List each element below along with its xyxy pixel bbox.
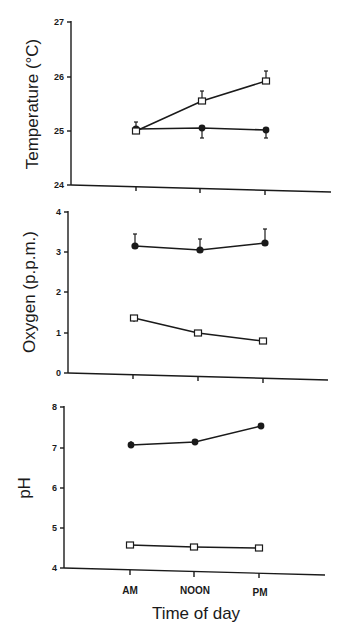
ph-series-filled <box>128 423 265 449</box>
data-point-open <box>131 315 138 321</box>
data-point-open <box>263 78 270 84</box>
y-tick-label: 3 <box>56 247 61 257</box>
x-category-labels: AM NOON PM <box>122 585 267 598</box>
data-point-filled <box>199 125 206 132</box>
temperature-x-axis <box>71 185 331 192</box>
y-tick-label: 2 <box>56 287 61 297</box>
y-tick-label: 24 <box>54 180 64 190</box>
data-point-filled <box>261 239 268 246</box>
ph-series-open <box>127 542 263 551</box>
y-tick-label: 8 <box>52 402 57 412</box>
data-point-open <box>256 545 263 551</box>
data-point-filled <box>263 127 270 134</box>
y-tick-label: 26 <box>54 72 64 82</box>
y-tick-label: 27 <box>54 17 64 27</box>
oxygen-series-open <box>131 315 267 344</box>
y-tick-label: 0 <box>56 368 61 378</box>
x-tick-label-noon: NOON <box>180 585 210 596</box>
oxygen-ylabel: Oxygen (p.p.m.) <box>20 231 39 353</box>
data-point-filled <box>131 242 138 249</box>
temperature-panel: Temperature (°C) 24 25 26 27 <box>23 17 331 195</box>
oxygen-panel: Oxygen (p.p.m.) 0 1 2 3 4 <box>20 207 328 383</box>
data-point-open <box>195 330 202 336</box>
ph-panel: pH 4 5 6 7 8 <box>15 402 325 623</box>
data-point-open <box>199 98 206 104</box>
temperature-y-ticks: 24 25 26 27 <box>54 17 71 190</box>
data-point-open <box>127 542 134 548</box>
ph-ylabel: pH <box>15 477 34 499</box>
y-tick-label: 4 <box>56 207 61 217</box>
y-tick-label: 25 <box>54 126 64 136</box>
data-point-filled <box>196 246 203 253</box>
figure: Temperature (°C) 24 25 26 27 <box>0 0 343 637</box>
y-tick-label: 6 <box>52 483 57 493</box>
data-point-open <box>260 338 267 344</box>
y-tick-label: 1 <box>56 328 61 338</box>
oxygen-series-filled <box>131 229 268 254</box>
y-tick-label: 4 <box>52 563 57 573</box>
data-point-open <box>191 544 198 550</box>
y-tick-label: 5 <box>52 523 57 533</box>
y-tick-label: 7 <box>52 443 57 453</box>
x-axis-title: Time of day <box>152 604 241 623</box>
ph-y-ticks: 4 5 6 7 8 <box>52 402 64 573</box>
data-point-filled <box>128 442 135 449</box>
data-point-open <box>133 128 140 134</box>
data-point-filled <box>258 423 265 430</box>
temperature-series-open <box>133 71 270 134</box>
temperature-ylabel: Temperature (°C) <box>23 39 42 170</box>
data-point-filled <box>192 439 199 446</box>
x-tick-label-am: AM <box>122 585 138 596</box>
x-tick-label-pm: PM <box>253 587 268 598</box>
oxygen-y-ticks: 0 1 2 3 4 <box>56 207 68 378</box>
temperature-series-filled <box>133 122 270 138</box>
